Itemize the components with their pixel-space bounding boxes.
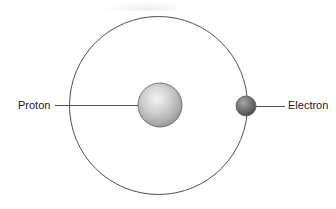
- proton-label: Proton: [18, 99, 50, 111]
- electron-label: Electron: [288, 99, 328, 111]
- hydrogen-atom-diagram: Proton Electron: [0, 0, 336, 209]
- atom-diagram-canvas: Proton Electron: [0, 0, 336, 209]
- proton-sphere: [138, 83, 182, 127]
- electron-sphere: [236, 96, 256, 116]
